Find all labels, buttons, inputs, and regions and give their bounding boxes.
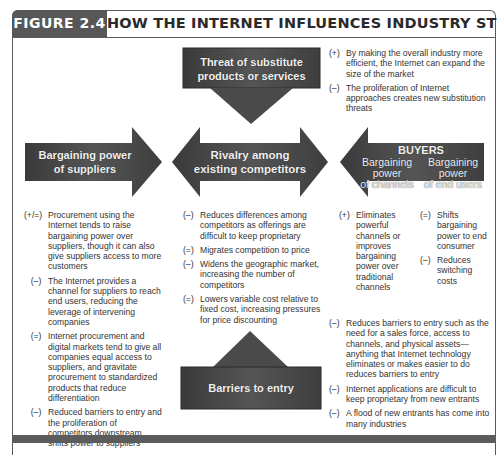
- effect-item: (–) The Internet provides a channel for …: [24, 276, 162, 327]
- effect-text: Reduces barriers to entry such as the ne…: [346, 318, 491, 380]
- effect-item: (–) Widens the geographic market, increa…: [183, 259, 323, 290]
- effect-sign: (+/=): [24, 210, 48, 272]
- barriers-effects: (–) Reduces barriers to entry such as th…: [329, 318, 491, 433]
- effect-sign: (=): [183, 245, 200, 255]
- effect-item: (–) The proliferation of Internet approa…: [329, 83, 491, 114]
- effect-text: Reduces differences among competitors as…: [200, 210, 323, 241]
- effect-sign: (+): [339, 210, 356, 292]
- buyers-label: BUYERS Bargaining power of channels Barg…: [356, 143, 486, 190]
- effect-sign: (–): [183, 210, 200, 241]
- effect-sign: (–): [329, 83, 346, 114]
- effect-item: (=) Internet procurement and digital mar…: [24, 331, 162, 403]
- effect-text: The proliferation of Internet approaches…: [346, 83, 491, 114]
- effect-item: (–) A flood of new entrants has come int…: [329, 408, 491, 429]
- effect-text: The Internet provides a channel for supp…: [48, 276, 162, 327]
- effect-item: (=) Lowers variable cost relative to fix…: [183, 294, 323, 325]
- effect-text: Internet applications are difficult to k…: [346, 384, 491, 405]
- effect-sign: (=): [24, 331, 48, 403]
- effect-sign: (–): [24, 276, 48, 327]
- effect-item: (=) Shifts bargaining power to end consu…: [420, 210, 488, 251]
- effect-item: (+) Eliminates powerful channels or impr…: [339, 210, 414, 292]
- effect-sign: (=): [183, 294, 200, 325]
- effect-text: Reduces switching costs: [437, 255, 488, 286]
- barriers-label: Barriers to entry: [181, 381, 321, 395]
- effect-sign: (–): [420, 255, 437, 286]
- effect-item: (–) Reduces barriers to entry such as th…: [329, 318, 491, 380]
- effect-text: Procurement using the Internet tends to …: [48, 210, 162, 272]
- effect-text: Lowers variable cost relative to fixed c…: [200, 294, 323, 325]
- effect-item: (–) Reduces switching costs: [420, 255, 488, 286]
- effect-sign: (+): [329, 48, 346, 79]
- substitutes-effects: (+) By making the overall industry more …: [329, 48, 491, 118]
- suppliers-label-line2: of suppliers: [30, 162, 140, 176]
- effect-item: (+/=) Procurement using the Internet ten…: [24, 210, 162, 272]
- barriers-arrow: [181, 331, 321, 409]
- effect-item: (–) Internet applications are difficult …: [329, 384, 491, 405]
- effect-text: Widens the geographic market, increasing…: [200, 259, 323, 290]
- effect-text: A flood of new entrants has come into ma…: [346, 408, 491, 429]
- channels-effects: (+) Eliminates powerful channels or impr…: [339, 210, 414, 296]
- suppliers-effects: (+/=) Procurement using the Internet ten…: [24, 210, 162, 453]
- effect-sign: (–): [329, 384, 346, 405]
- effect-item: (=) Migrates competition to price: [183, 245, 323, 255]
- effect-sign: (–): [329, 318, 346, 380]
- effect-item: (+) By making the overall industry more …: [329, 48, 491, 79]
- rivalry-label-line2: existing competitors: [190, 162, 310, 176]
- effect-text: Migrates competition to price: [200, 245, 323, 255]
- rivalry-effects: (–) Reduces differences among competitor…: [183, 210, 323, 329]
- effect-text: Shifts bargaining power to end consumer: [437, 210, 488, 251]
- end-users-effects: (=) Shifts bargaining power to end consu…: [420, 210, 488, 290]
- substitutes-label-line2: products or services: [183, 69, 320, 83]
- rivalry-label: Rivalry among existing competitors: [190, 148, 310, 176]
- suppliers-label: Bargaining power of suppliers: [30, 148, 140, 176]
- rivalry-label-line1: Rivalry among: [190, 148, 310, 162]
- effect-item: (–) Reduces differences among competitor…: [183, 210, 323, 241]
- end-users-label-line3: of end users: [420, 179, 486, 190]
- effect-text: By making the overall industry more effi…: [346, 48, 491, 79]
- substitutes-label: Threat of substitute products or service…: [183, 55, 320, 83]
- effect-text: Eliminates powerful channels or improves…: [356, 210, 414, 292]
- effect-sign: (–): [183, 259, 200, 290]
- substitutes-label-line1: Threat of substitute: [183, 55, 320, 69]
- bottom-bar: [12, 435, 496, 443]
- buyers-heading: BUYERS: [356, 143, 486, 157]
- effect-text: Internet procurement and digital markets…: [48, 331, 162, 403]
- suppliers-label-line1: Bargaining power: [30, 148, 140, 162]
- channels-label: Bargaining power of channels: [356, 157, 418, 190]
- effect-sign: (–): [329, 408, 346, 429]
- channels-label-line3: of channels: [356, 179, 418, 190]
- effect-sign: (=): [420, 210, 437, 251]
- end-users-label: Bargaining power of end users: [420, 157, 486, 190]
